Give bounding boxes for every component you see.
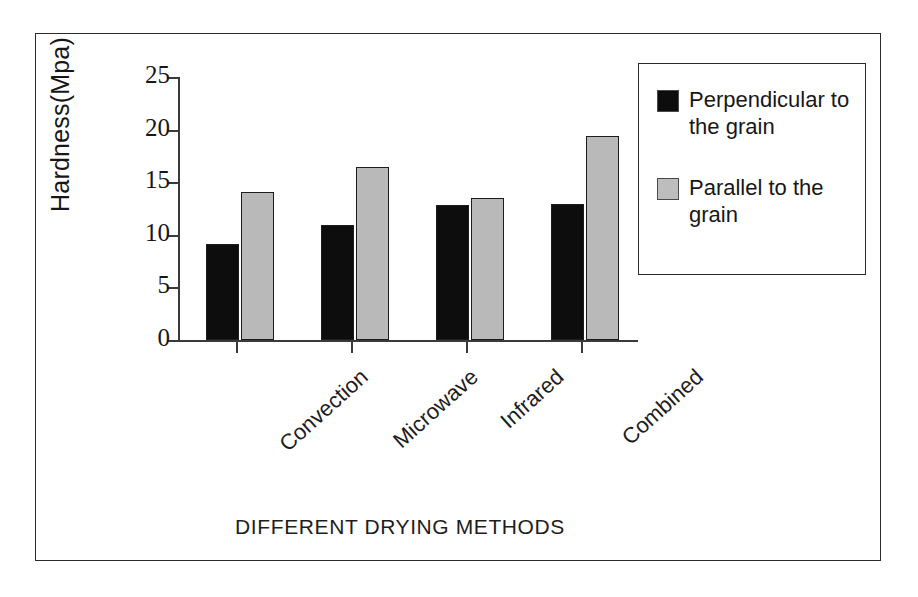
bar: [586, 136, 619, 340]
x-axis-tick: [466, 340, 468, 353]
x-axis-tick: [351, 340, 353, 353]
x-axis-tick: [581, 340, 583, 353]
y-axis-tick-label: 5: [158, 271, 171, 299]
bar-group: [293, 77, 408, 340]
legend-item-perpendicular: Perpendicular to the grain: [657, 86, 853, 140]
y-axis-tick-label: 15: [145, 166, 170, 194]
bar: [241, 192, 274, 340]
bar: [321, 225, 354, 340]
bar: [471, 198, 504, 340]
x-axis-title: DIFFERENT DRYING METHODS: [120, 515, 680, 539]
bar: [206, 244, 239, 340]
y-axis-tick-label: 20: [145, 114, 170, 142]
legend-swatch-icon-parallel: [657, 178, 679, 200]
legend-item-parallel: Parallel to the grain: [657, 174, 853, 228]
bar-group: [178, 77, 293, 340]
legend-label-parallel: Parallel to the grain: [689, 174, 853, 228]
y-axis-title: Hardness(Mpa): [46, 5, 75, 245]
legend-swatch-icon-perpendicular: [657, 90, 679, 112]
y-axis-tick-label: 0: [158, 324, 171, 352]
bar-group: [523, 77, 638, 340]
legend-label-perpendicular: Perpendicular to the grain: [689, 86, 853, 140]
bar: [356, 167, 389, 340]
x-axis-tick: [236, 340, 238, 353]
bar-group: [408, 77, 523, 340]
bar: [436, 205, 469, 340]
plot-area: 0510152025: [178, 77, 638, 340]
chart-legend: Perpendicular to the grain Parallel to t…: [638, 63, 866, 275]
bar: [551, 204, 584, 340]
x-axis-line: [178, 340, 638, 342]
chart-figure: Hardness(Mpa) DIFFERENT DRYING METHODS 0…: [0, 0, 918, 597]
y-axis-tick-label: 25: [145, 61, 170, 89]
y-axis-tick-label: 10: [145, 219, 170, 247]
